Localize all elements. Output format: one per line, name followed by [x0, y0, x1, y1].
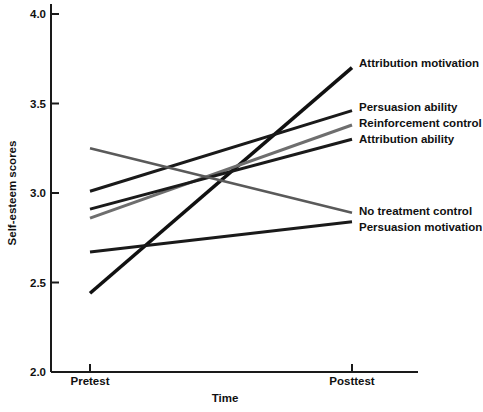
- y-tick-group: 4.0 3.5 3.0 2.5 2.0: [30, 8, 59, 378]
- x-tick-label-pretest: Pretest: [71, 375, 110, 387]
- chart-figure: 4.0 3.5 3.0 2.5 2.0 Pretest Posttest Tim…: [0, 0, 483, 412]
- series-label-attribution-ability: Attribution ability: [359, 133, 455, 145]
- y-tick-label-2.5: 2.5: [30, 277, 47, 289]
- series-label-persuasion-ability: Persuasion ability: [359, 101, 458, 113]
- series-label-persuasion-motivation: Persuasion motivation: [359, 221, 482, 233]
- y-axis-title: Self-esteem scores: [6, 141, 18, 246]
- y-tick-label-4.0: 4.0: [30, 8, 46, 20]
- line-chart-canvas: 4.0 3.5 3.0 2.5 2.0 Pretest Posttest Tim…: [0, 0, 483, 412]
- series-label-reinforcement-control: Reinforcement control: [359, 117, 482, 129]
- series-line-persuasion-motivation: [90, 222, 352, 252]
- y-tick-label-2.0: 2.0: [30, 366, 46, 378]
- series-label-no-treatment-control: No treatment control: [359, 205, 472, 217]
- series-line-group: [90, 68, 352, 294]
- y-tick-label-3.0: 3.0: [30, 187, 46, 199]
- x-axis-title: Time: [212, 392, 239, 404]
- series-label-group: Attribution motivation Persuasion abilit…: [359, 57, 482, 233]
- y-tick-label-3.5: 3.5: [30, 98, 47, 110]
- x-tick-group: Pretest Posttest: [71, 364, 375, 387]
- x-tick-label-posttest: Posttest: [329, 375, 375, 387]
- series-label-attribution-motivation: Attribution motivation: [359, 57, 479, 69]
